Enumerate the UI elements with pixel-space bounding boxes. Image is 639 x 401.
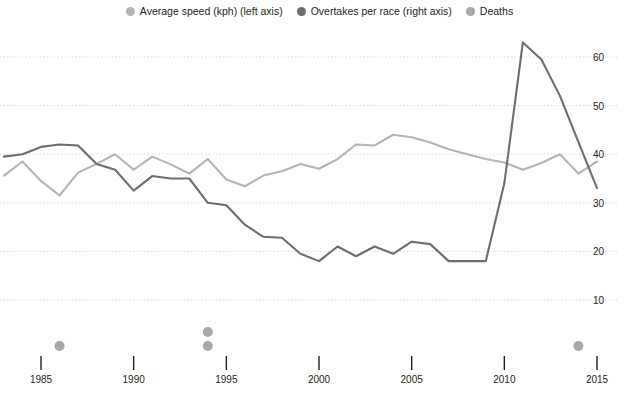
formula-one-chart: Average speed (kph) (left axis) Overtake… (0, 0, 639, 401)
y-axis-tick-label: 50 (593, 101, 604, 112)
x-axis-tick-label: 1985 (30, 374, 52, 385)
y-axis-tick-label: 10 (593, 295, 604, 306)
y-axis-tick-label: 20 (593, 246, 604, 257)
y-axis-tick-label: 60 (593, 52, 604, 63)
x-axis-tick-label: 2010 (493, 374, 515, 385)
y-axis-tick-label: 30 (593, 198, 604, 209)
x-axis-tick-label: 2000 (308, 374, 330, 385)
x-axis-tick-label: 2015 (586, 374, 608, 385)
axis-ticks (0, 0, 639, 401)
x-axis-tick-label: 1990 (123, 374, 145, 385)
x-axis-tick-label: 1995 (215, 374, 237, 385)
y-axis-tick-label: 40 (593, 149, 604, 160)
plot-area: 102030405060 198519901995200020052010201… (0, 0, 639, 401)
x-axis-tick-label: 2005 (401, 374, 423, 385)
